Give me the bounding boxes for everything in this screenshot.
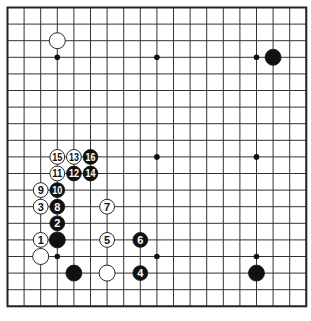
star-point <box>254 55 260 61</box>
white-stone: 5 <box>100 233 115 248</box>
black-stone: 8 <box>50 199 65 214</box>
black-stone: 6 <box>133 233 148 248</box>
black-stone: 4 <box>133 266 148 281</box>
star-point <box>154 254 160 260</box>
black-stone: 12 <box>67 166 82 181</box>
star-point <box>154 154 160 160</box>
white-stone: 15 <box>50 150 65 165</box>
move-number: 14 <box>86 167 97 179</box>
black-stone: 14 <box>83 166 98 181</box>
black-stone <box>49 232 65 248</box>
move-number: 9 <box>38 184 44 196</box>
move-number: 5 <box>104 234 110 246</box>
move-number: 7 <box>104 201 110 213</box>
black-stone: 16 <box>83 150 98 165</box>
white-stone: 7 <box>100 199 115 214</box>
move-number: 10 <box>52 184 62 196</box>
move-number: 8 <box>54 201 60 213</box>
black-stone <box>249 265 265 281</box>
move-number: 4 <box>137 267 144 279</box>
star-point <box>154 55 160 61</box>
star-point <box>254 254 260 260</box>
white-stone <box>33 249 49 265</box>
black-stone <box>66 265 82 281</box>
white-stone: 9 <box>33 183 48 198</box>
white-stone: 1 <box>33 233 48 248</box>
move-number: 1 <box>38 234 44 246</box>
go-board[interactable]: 15131611121491038721564 <box>0 0 311 321</box>
black-stone: 10 <box>50 183 65 198</box>
black-stone: 2 <box>50 216 65 231</box>
move-number: 3 <box>38 201 44 213</box>
move-number: 15 <box>52 151 62 163</box>
white-stone: 13 <box>67 150 82 165</box>
white-stone: 11 <box>50 166 65 181</box>
move-number: 13 <box>69 151 79 163</box>
star-point <box>55 254 61 260</box>
black-stone <box>265 49 281 65</box>
move-number: 6 <box>137 234 143 246</box>
move-number: 11 <box>52 167 62 179</box>
move-number: 16 <box>86 151 96 163</box>
move-number: 12 <box>69 167 79 179</box>
white-stone <box>49 33 65 49</box>
move-number: 2 <box>54 217 60 229</box>
white-stone: 3 <box>33 199 48 214</box>
star-point <box>55 55 61 61</box>
star-point <box>254 154 260 160</box>
white-stone <box>99 265 115 281</box>
go-board-grid[interactable]: 15131611121491038721564 <box>0 0 311 321</box>
